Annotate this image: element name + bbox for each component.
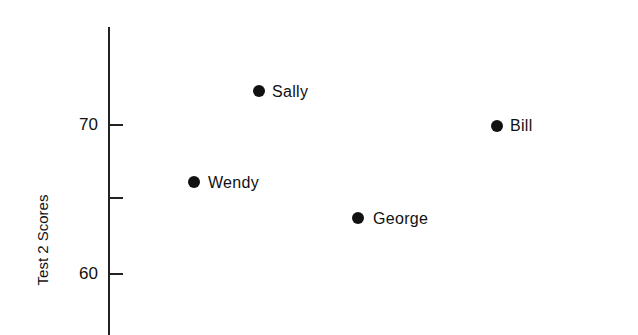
point-label-bill: Bill — [510, 117, 533, 135]
point-label-sally: Sally — [272, 83, 308, 101]
point-label-wendy: Wendy — [208, 174, 259, 192]
data-point-sally — [253, 85, 265, 97]
y-tick-65 — [110, 197, 123, 199]
y-axis-line — [108, 27, 110, 335]
data-point-wendy — [188, 176, 200, 188]
data-point-george — [352, 212, 364, 224]
y-tick-60 — [110, 273, 123, 275]
y-tick-label-70: 70 — [38, 116, 98, 134]
point-label-george: George — [373, 210, 428, 228]
data-point-bill — [491, 120, 503, 132]
y-axis-label: Test 2 Scores — [34, 195, 51, 286]
y-tick-70 — [110, 124, 123, 126]
scatter-plot: 70 60 Test 2 Scores Sally Bill Wendy Geo… — [0, 0, 638, 335]
